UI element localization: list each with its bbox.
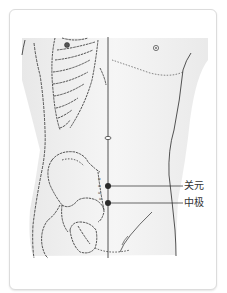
guanyuan-point [105, 183, 111, 189]
guanyuan-label: 关元 [184, 180, 204, 191]
zhongji-label: 中极 [184, 197, 204, 208]
svg-text:ɑ: ɑ [98, 183, 101, 188]
navel [105, 136, 111, 139]
left-nipple [65, 43, 70, 48]
svg-text:ɑ: ɑ [98, 190, 101, 195]
svg-text:ɑ: ɑ [99, 196, 102, 201]
torso-illustration: ɑ ɑ ɑ ɑ [0, 0, 227, 293]
svg-text:ɑ: ɑ [98, 176, 101, 181]
body-shading [22, 38, 208, 256]
zhongji-point [105, 200, 111, 206]
